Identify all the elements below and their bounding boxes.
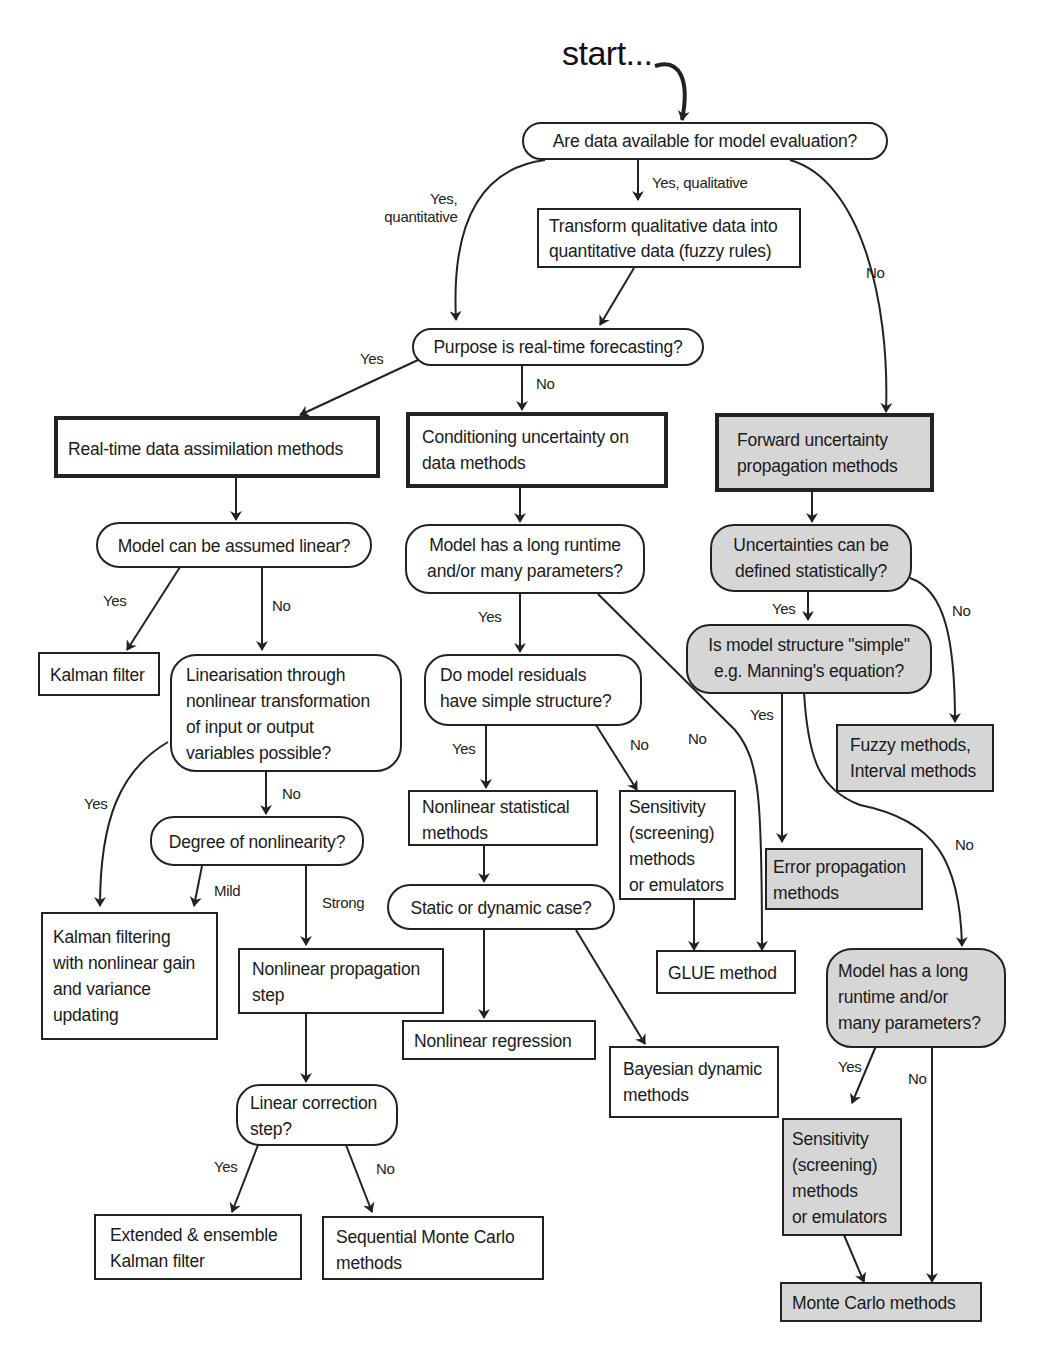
edge-label-linearisation-yes: Yes — [84, 795, 108, 813]
edge-label-statistical-no: No — [952, 602, 971, 620]
edge-label-runtime-mid-yes: Yes — [478, 608, 502, 626]
edge-label-correction-yes: Yes — [214, 1158, 238, 1176]
edge-label-realtime-yes: Yes — [360, 350, 384, 368]
box-realtime-assimilation[interactable]: Real-time data assimilation methods — [54, 416, 380, 478]
question-data-available[interactable]: Are data available for model evaluation? — [522, 122, 888, 160]
box-sequential-monte-carlo[interactable]: Sequential Monte Carlo methods — [322, 1216, 544, 1280]
box-fuzzy-interval[interactable]: Fuzzy methods, Interval methods — [836, 724, 994, 792]
box-transform-qualitative[interactable]: Transform qualitative data into quantita… — [537, 208, 801, 268]
question-residuals-structure[interactable]: Do model residuals have simple structure… — [424, 654, 642, 726]
edge-label-strong: Strong — [322, 894, 364, 912]
box-nonlinear-propagation[interactable]: Nonlinear propagation step — [238, 948, 444, 1014]
question-degree-nonlinearity[interactable]: Degree of nonlinearity? — [150, 816, 364, 866]
box-nonlinear-regression[interactable]: Nonlinear regression — [402, 1020, 596, 1060]
box-glue-method[interactable]: GLUE method — [656, 950, 796, 994]
edge-label-realtime-no: No — [536, 375, 555, 393]
edge-label-simple-yes: Yes — [750, 706, 774, 724]
edge-label-yes-qualitative: Yes, qualitative — [652, 174, 748, 192]
edge-label-runtime-right-yes: Yes — [838, 1058, 862, 1076]
edge-label-statistical-yes: Yes — [772, 600, 796, 618]
edge-label-residuals-no: No — [630, 736, 649, 754]
edge-label-no-data: No — [866, 264, 885, 282]
box-nonlinear-statistical[interactable]: Nonlinear statistical methods — [408, 790, 598, 846]
question-simple-structure[interactable]: Is model structure "simple" e.g. Manning… — [686, 624, 932, 694]
edge-label-simple-no: No — [955, 836, 974, 854]
box-bayesian-dynamic[interactable]: Bayesian dynamic methods — [609, 1046, 779, 1118]
box-forward-propagation[interactable]: Forward uncertainty propagation methods — [715, 413, 934, 492]
box-kalman-filter[interactable]: Kalman filter — [38, 652, 160, 696]
edge-label-linearisation-no: No — [282, 785, 301, 803]
start-label: start... — [562, 34, 652, 73]
question-linearisation[interactable]: Linearisation through nonlinear transfor… — [170, 654, 402, 772]
question-long-runtime-right[interactable]: Model has a long runtime and/or many par… — [826, 948, 1006, 1048]
edge-label-linear-yes: Yes — [103, 592, 127, 610]
question-uncertainties-statistical[interactable]: Uncertainties can be defined statistical… — [710, 524, 912, 592]
edge-label-mild: Mild — [214, 882, 240, 900]
box-conditioning-uncertainty[interactable]: Conditioning uncertainty on data methods — [406, 412, 668, 488]
box-monte-carlo[interactable]: Monte Carlo methods — [780, 1282, 982, 1322]
box-error-propagation[interactable]: Error propagation methods — [765, 848, 923, 910]
edge-label-yes-quantitative: Yes, quantitative — [378, 190, 457, 226]
edge-label-correction-no: No — [376, 1160, 395, 1178]
question-long-runtime-mid[interactable]: Model has a long runtime and/or many par… — [405, 524, 645, 594]
edge-label-linear-no: No — [272, 597, 291, 615]
question-linear-correction[interactable]: Linear correction step? — [236, 1084, 398, 1146]
edge-label-runtime-right-no: No — [908, 1070, 927, 1088]
question-realtime-forecasting[interactable]: Purpose is real-time forecasting? — [412, 328, 704, 366]
box-sensitivity-right[interactable]: Sensitivity (screening) methods or emula… — [782, 1118, 902, 1236]
box-extended-ensemble-kalman[interactable]: Extended & ensemble Kalman filter — [94, 1214, 302, 1280]
edge-label-runtime-mid-no: No — [688, 730, 707, 748]
box-sensitivity-mid[interactable]: Sensitivity (screening) methods or emula… — [619, 790, 736, 900]
question-static-dynamic[interactable]: Static or dynamic case? — [387, 884, 615, 930]
start-arrow — [655, 64, 685, 120]
question-model-linear[interactable]: Model can be assumed linear? — [96, 522, 372, 568]
edge-label-residuals-yes: Yes — [452, 740, 476, 758]
box-kalman-nonlinear-gain[interactable]: Kalman filtering with nonlinear gain and… — [41, 912, 218, 1040]
